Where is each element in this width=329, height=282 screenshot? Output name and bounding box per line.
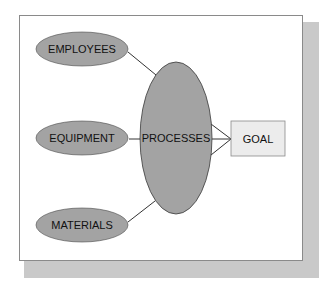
edge-processes-goal-upper	[211, 124, 231, 139]
edge-processes-goal-lower	[211, 139, 231, 155]
edge-employees-processes	[128, 52, 156, 75]
node-materials: MATERIALS	[36, 208, 128, 242]
node-employees: EMPLOYEES	[36, 32, 128, 66]
equipment-label: EQUIPMENT	[49, 132, 115, 144]
node-goal: GOAL	[231, 121, 285, 156]
node-equipment: EQUIPMENT	[36, 121, 128, 155]
materials-label: MATERIALS	[51, 219, 113, 231]
processes-label: PROCESSES	[142, 132, 210, 144]
edge-materials-processes	[128, 201, 155, 222]
goal-label: GOAL	[243, 133, 274, 145]
diagram-canvas: EMPLOYEES EQUIPMENT MATERIALS PROCESSES …	[0, 0, 329, 282]
node-processes: PROCESSES	[140, 62, 212, 214]
employees-label: EMPLOYEES	[48, 43, 116, 55]
